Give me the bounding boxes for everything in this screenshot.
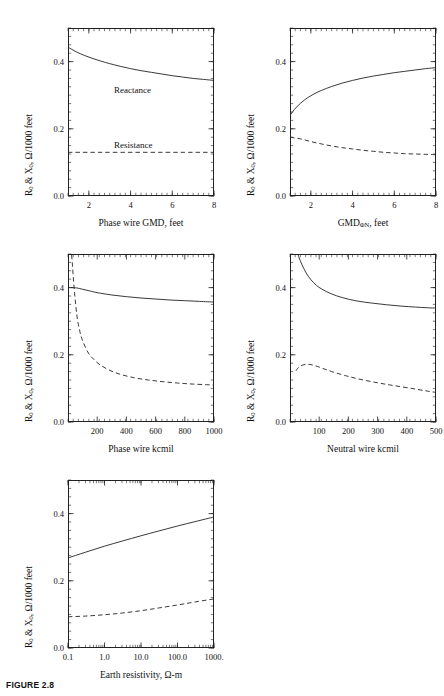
y-tick-label: 0.0 [34, 644, 64, 653]
y-axis-title: R0 & X0, Ω/1000 feet [246, 340, 256, 422]
x-tick-label: 8 [434, 201, 438, 210]
y-tick-label: 0.0 [256, 192, 286, 201]
y-axis-title: R0 & X0, Ω/1000 feet [24, 114, 34, 196]
chart-panel-phase-wire-kcmil: 0.00.20.42004006008001000Phase wire kcmi… [0, 240, 224, 462]
y-tick-label: 0.2 [34, 125, 64, 134]
series-curve-reactance [68, 517, 214, 558]
y-tick-label: 0.4 [256, 57, 286, 66]
y-tick-label: 0.4 [34, 509, 64, 518]
x-tick-label: 200 [342, 427, 355, 436]
figure-caption: FIGURE 2.8 [6, 680, 54, 690]
y-axis-title: R0 & X0, Ω/1000 feet [24, 340, 34, 422]
x-tick-label: 400 [400, 427, 413, 436]
y-tick-label: 0.2 [256, 125, 286, 134]
series-curve-reactance [68, 47, 214, 80]
series-curve-resistance [68, 599, 214, 617]
y-tick-label: 0.4 [256, 283, 286, 292]
x-tick-label: 800 [178, 427, 191, 436]
series-curve-resistance [296, 364, 436, 392]
y-axis-title: R0 & X0, Ω/1000 feet [246, 114, 256, 196]
chart-panel-earth-resistivity: 0.00.20.40.11.010.0100.01000.Earth resis… [0, 466, 224, 688]
y-tick-label: 0.0 [256, 418, 286, 427]
x-tick-label: 200 [91, 427, 104, 436]
chart-panel-gmd-phi-n: 0.00.20.42468GMDΦN, feetR0 & X0, Ω/1000 … [222, 14, 444, 236]
x-axis-title: Earth resistivity, Ω-m [68, 670, 214, 680]
x-tick-label: 0.1 [63, 653, 74, 662]
y-tick-label: 0.4 [34, 57, 64, 66]
series-curve-resistance [290, 137, 436, 154]
x-tick-label: 300 [371, 427, 384, 436]
series-curve-resistance [71, 247, 214, 385]
x-tick-label: 4 [350, 201, 354, 210]
y-tick-label: 0.2 [34, 577, 64, 586]
x-tick-label: 1.0 [99, 653, 110, 662]
series-curve-reactance [71, 288, 214, 302]
x-tick-label: 100.0 [168, 653, 187, 662]
annotation-reactance: Reactance [114, 85, 151, 95]
y-tick-label: 0.0 [34, 418, 64, 427]
x-tick-label: 500 [430, 427, 443, 436]
y-tick-label: 0.4 [34, 283, 64, 292]
x-tick-label: 1000. [204, 653, 223, 662]
x-tick-label: 4 [128, 201, 132, 210]
x-tick-label: 400 [120, 427, 133, 436]
x-axis-title: Neutral wire kcmil [290, 444, 436, 454]
x-tick-label: 6 [170, 201, 174, 210]
x-tick-label: 8 [212, 201, 216, 210]
x-axis-title: Phase wire GMD, feet [68, 218, 214, 228]
chart-panel-phase-wire-gmd: 0.00.20.42468Phase wire GMD, feetR0 & X0… [0, 14, 224, 236]
x-tick-label: 6 [392, 201, 396, 210]
x-axis-title: Phase wire kcmil [68, 444, 214, 454]
chart-panel-neutral-wire-kcmil: 0.00.20.4100200300400500Neutral wire kcm… [222, 240, 444, 462]
x-tick-label: 100 [313, 427, 326, 436]
annotation-resistance: Resistance [114, 140, 153, 150]
series-curve-reactance [290, 68, 436, 116]
figure-sheet: 0.00.20.42468Phase wire GMD, feetR0 & X0… [0, 0, 444, 696]
y-tick-label: 0.2 [256, 351, 286, 360]
x-tick-label: 2 [87, 201, 91, 210]
x-tick-label: 10.0 [134, 653, 149, 662]
x-tick-label: 600 [149, 427, 162, 436]
x-tick-label: 1000 [206, 427, 223, 436]
x-axis-title: GMDΦN, feet [290, 218, 436, 228]
y-axis-title: R0 & X0, Ω/1000 feet [24, 566, 34, 648]
x-tick-label: 2 [309, 201, 313, 210]
y-tick-label: 0.2 [34, 351, 64, 360]
y-tick-label: 0.0 [34, 192, 64, 201]
